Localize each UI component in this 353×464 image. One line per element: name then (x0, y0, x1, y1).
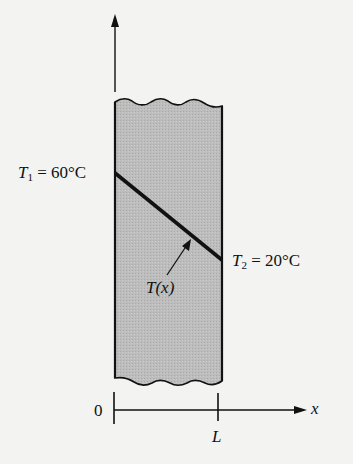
origin-label: 0 (94, 402, 103, 419)
length-label: L (212, 428, 221, 445)
t2-value: = 20°C (247, 251, 300, 270)
wall-diagram (0, 0, 353, 464)
t1-value: = 60°C (33, 163, 86, 182)
profile-label: T(x) (146, 279, 174, 296)
t2-label: T2 = 20°C (232, 252, 300, 271)
x-axis (114, 392, 307, 424)
x-axis-label: x (311, 400, 319, 417)
temperature-axis-arrow (111, 14, 119, 92)
wall-slab (115, 99, 222, 385)
t1-label: T1 = 60°C (18, 164, 86, 183)
